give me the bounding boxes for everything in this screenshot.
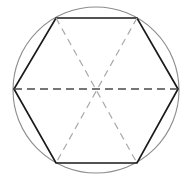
hexagon-in-circle-diagram <box>0 0 185 184</box>
diagram-background <box>0 0 185 184</box>
figure-canvas: Regular hexagon inscribed in a circle wi… <box>0 0 185 184</box>
